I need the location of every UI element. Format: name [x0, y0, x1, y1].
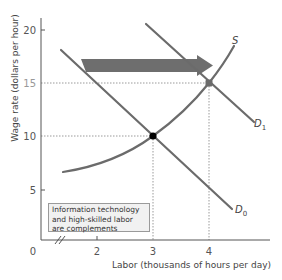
y-tick-label-5: 5 — [30, 185, 36, 196]
y-tick-label-15: 15 — [23, 78, 36, 89]
equilibrium-new-point — [206, 80, 213, 87]
y-tick-label-10: 10 — [23, 131, 36, 142]
x-tick-label-3: 3 — [150, 246, 156, 257]
note-line-2: and high-skilled labor — [52, 215, 146, 225]
x-tick-label-0: 0 — [30, 246, 36, 257]
annotation-note-box: Information technology and high-skilled … — [48, 203, 150, 232]
curve-label-d1: D1 — [254, 118, 266, 132]
curve-label-d0: D0 — [235, 204, 247, 218]
x-axis-title: Labor (thousands of hours per day) — [112, 260, 271, 270]
curve-label-s: S — [232, 35, 239, 46]
x-tick-label-4: 4 — [206, 246, 212, 257]
note-line-1: Information technology — [52, 205, 146, 215]
chart-canvas: 20 15 10 5 0 2 3 4 Wage rate (dollars pe… — [0, 0, 282, 280]
equilibrium-initial-point — [149, 132, 156, 139]
note-line-3: are complements — [52, 224, 146, 234]
y-tick-label-20: 20 — [23, 25, 36, 36]
y-axis-title: Wage rate (dollars per hour) — [10, 14, 20, 142]
demand-curve-d0 — [61, 50, 232, 209]
x-tick-label-2: 2 — [94, 246, 100, 257]
